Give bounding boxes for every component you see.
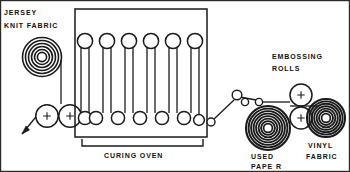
oven-bottom-roller (177, 111, 190, 124)
used-paper-label-line1: USED (251, 153, 274, 160)
guide-roller (207, 118, 215, 126)
embossing-rolls-label-line1: EMBOSSING (272, 53, 323, 60)
oven-top-roller (121, 33, 136, 48)
oven-label: CURING OVEN (104, 152, 163, 159)
oven-bottom-roller (133, 111, 146, 124)
oven-bottom-roller (155, 111, 168, 124)
guide-roller (232, 90, 242, 100)
supply-roll-label-line2: KNIT FABRIC (4, 22, 58, 29)
oven-bottom-roller (89, 111, 102, 124)
oven-bottom-roller (194, 115, 205, 126)
oven-top-roller (143, 33, 158, 48)
oven-bottom-roller (111, 111, 124, 124)
oven-top-roller (77, 33, 92, 48)
oven-top-roller (165, 33, 180, 48)
process-diagram: JERSEY KNIT FABRIC (0, 0, 350, 172)
supply-roll-label-line1: JERSEY (4, 9, 37, 16)
nip-roller-1 (36, 105, 58, 127)
guide-roller (255, 98, 262, 105)
oven-top-roller (187, 33, 202, 48)
vinyl-fabric-label-line1: VINYL (308, 142, 333, 149)
guide-roller (241, 98, 248, 105)
vinyl-fabric-label-line2: FABRIC (306, 153, 337, 160)
diagram-canvas: JERSEY KNIT FABRIC (0, 0, 350, 172)
embossing-rolls-label-line2: ROLLS (272, 65, 300, 72)
embossing-roller-upper (290, 84, 312, 106)
oven-bottom-rollers (78, 111, 204, 125)
nip-roller-2 (59, 105, 81, 127)
used-paper-label-line2: PAPE R (251, 163, 282, 170)
oven-top-roller (99, 33, 114, 48)
